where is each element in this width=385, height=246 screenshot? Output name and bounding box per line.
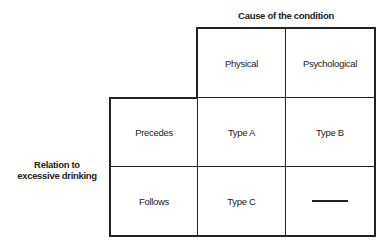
row-header-follows: Follows: [111, 167, 197, 235]
row-title-line-2: excessive drinking: [8, 170, 106, 181]
column-header-physical: Physical: [198, 29, 285, 97]
row-header-precedes: Precedes: [111, 99, 197, 166]
empty-dash-icon: [312, 200, 348, 202]
grid-bottom-border: [109, 235, 376, 237]
grid-right-border: [374, 27, 376, 237]
relation-to-drinking-label: Relation to excessive drinking: [8, 159, 106, 181]
column-header-psychological: Psychological: [286, 29, 374, 97]
row-title-line-1: Relation to: [8, 159, 106, 170]
cell-type-c: Type C: [198, 167, 285, 235]
cell-type-b: Type B: [286, 98, 374, 166]
cell-type-a: Type A: [198, 98, 285, 166]
cell-empty: [286, 167, 374, 235]
cause-of-condition-title: Cause of the condition: [196, 10, 376, 21]
